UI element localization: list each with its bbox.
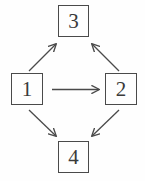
node-2: 2: [105, 73, 137, 105]
node-1-label: 1: [22, 78, 33, 99]
node-3-label: 3: [68, 10, 79, 31]
edge-2-to-3: [92, 44, 119, 71]
graph-diagram: 3 1 2 4: [0, 0, 145, 181]
node-1: 1: [11, 73, 43, 105]
edge-1-to-3: [29, 44, 56, 71]
node-3: 3: [58, 5, 89, 37]
edge-1-to-4: [29, 110, 56, 136]
node-2-label: 2: [116, 78, 127, 99]
node-4-label: 4: [68, 146, 79, 167]
node-4: 4: [58, 141, 89, 173]
edge-2-to-4: [92, 110, 119, 136]
